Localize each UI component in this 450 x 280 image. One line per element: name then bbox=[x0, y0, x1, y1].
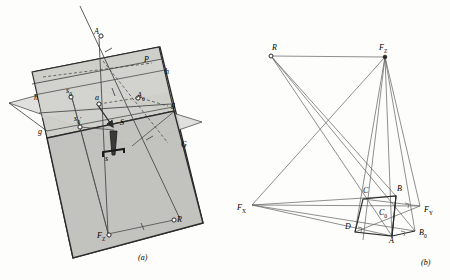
plane-front-face bbox=[47, 111, 203, 258]
label-b-C: C bbox=[363, 186, 368, 195]
label-S: S bbox=[120, 118, 124, 127]
label-a: a bbox=[95, 93, 99, 102]
ray-FY-to-D bbox=[355, 206, 420, 232]
label-FZ-a: FZ bbox=[97, 231, 105, 242]
point-a bbox=[97, 102, 101, 106]
label-s0-prime-mark: ′ bbox=[80, 115, 82, 123]
label-b-FY: FY bbox=[424, 205, 433, 216]
label-s0-sub: 0 bbox=[69, 91, 72, 97]
label-h-left: h bbox=[34, 93, 38, 102]
panel-b-graphics bbox=[252, 54, 420, 240]
point-b-R bbox=[269, 54, 273, 58]
line-R-FZ bbox=[271, 56, 385, 57]
label-b-B0: B0 bbox=[419, 228, 427, 239]
label-s: s bbox=[105, 154, 108, 163]
label-A0: A0 bbox=[137, 91, 145, 102]
label-s0-prime: s0′ bbox=[74, 114, 81, 125]
ray-FZ-to-FX bbox=[252, 57, 385, 205]
label-P: P bbox=[144, 55, 149, 64]
label-g-right: g bbox=[171, 100, 175, 109]
label-A0-sub: 0 bbox=[142, 96, 145, 102]
label-b-FZ: FZ bbox=[379, 43, 387, 54]
label-R: R bbox=[177, 215, 182, 224]
label-b-FZ-sub: Z bbox=[384, 48, 387, 54]
figure-svg bbox=[0, 0, 450, 280]
label-g-left: g bbox=[38, 127, 42, 136]
label-b-FX-sub: X bbox=[242, 208, 246, 214]
label-b-FX: FX bbox=[237, 203, 246, 214]
caption-a: (a) bbox=[138, 253, 147, 262]
label-h-right: h bbox=[165, 67, 169, 76]
ray-R-to-B0 bbox=[271, 56, 415, 231]
point-FZ bbox=[107, 233, 111, 237]
point-b-FZ bbox=[383, 55, 387, 59]
label-b-R: R bbox=[272, 43, 277, 52]
label-b-FY-sub: Y bbox=[429, 210, 433, 216]
point-R bbox=[172, 218, 176, 222]
right-angle-tick-D bbox=[358, 227, 362, 232]
label-FZ-a-sub: Z bbox=[102, 236, 105, 242]
label-G: G bbox=[181, 140, 187, 149]
ray-R-to-B bbox=[271, 56, 396, 196]
label-s0: s0 bbox=[66, 86, 72, 97]
label-b-C0-sub: 0 bbox=[384, 213, 387, 219]
label-b-C0: C0 bbox=[379, 208, 387, 219]
tick-ray-1 bbox=[105, 48, 112, 52]
point-s0-prime bbox=[78, 125, 82, 129]
figure-container: A P h s0 a A0 h g s0′ S g G s R FZ R FZ … bbox=[0, 0, 450, 280]
ray-R-to-A bbox=[271, 56, 392, 236]
right-angle-tick-FY bbox=[405, 203, 409, 208]
ray-FX-to-A bbox=[252, 205, 392, 236]
label-b-B0-sub: 0 bbox=[424, 233, 427, 239]
label-b-D: D bbox=[345, 222, 351, 231]
point-A bbox=[99, 34, 103, 38]
label-b-A: A bbox=[389, 236, 394, 245]
caption-b: (b) bbox=[421, 258, 430, 267]
label-A: A bbox=[94, 27, 99, 36]
label-b-B: B bbox=[397, 184, 402, 193]
